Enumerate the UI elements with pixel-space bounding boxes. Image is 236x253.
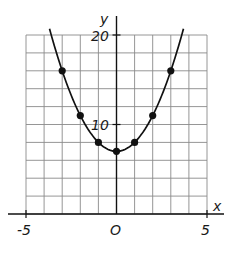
y-tick-label-20: 20: [91, 28, 109, 44]
data-point: [149, 112, 156, 119]
data-point: [167, 67, 174, 74]
data-point: [131, 139, 138, 146]
data-point: [77, 112, 84, 119]
y-tick-label-10: 10: [91, 117, 109, 133]
x-axis-label: x: [212, 198, 222, 214]
y-axis-label: y: [99, 11, 109, 27]
data-point: [95, 139, 102, 146]
origin-label: O: [110, 222, 121, 238]
data-point: [113, 148, 120, 155]
x-tick-label-min: -5: [17, 222, 31, 238]
chart-canvas: y x 20 10 -5 O 5: [0, 0, 236, 253]
parabola-chart: y x 20 10 -5 O 5: [0, 0, 236, 253]
x-tick-label-max: 5: [201, 222, 210, 238]
data-point: [59, 67, 66, 74]
